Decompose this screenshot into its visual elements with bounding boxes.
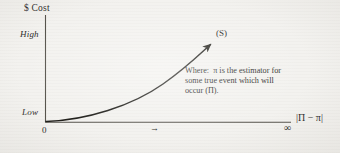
y-axis-title: $ Cost xyxy=(24,3,50,13)
x-infinity-label: ∞ xyxy=(284,123,291,134)
y-tick-high: High xyxy=(20,30,39,40)
y-tick-low: Low xyxy=(22,108,38,118)
cost-curve-figure: $ Cost High Low 0 → ∞ |Π − π| (S) Where:… xyxy=(0,0,340,153)
note-line-3: occur (Π). xyxy=(185,86,219,96)
note-line-1: Where: π is the estimator for xyxy=(185,66,281,76)
x-origin-label: 0 xyxy=(42,126,47,136)
curve-label: (S) xyxy=(216,29,227,39)
x-axis-title: |Π − π| xyxy=(296,113,323,124)
note-line-2: some true event which will xyxy=(185,76,274,86)
x-direction-arrow-icon: → xyxy=(150,124,159,134)
